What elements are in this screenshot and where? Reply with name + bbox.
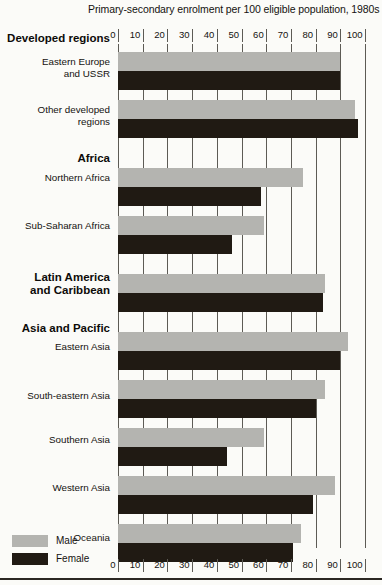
- bar-eastern-europe-and-ussr-female: [118, 71, 340, 90]
- chart-title: Primary-secondary enrolment per 100 elig…: [88, 3, 380, 15]
- bottom-rule: [0, 578, 382, 580]
- plot-area: [118, 44, 365, 548]
- bar-northern-africa-female: [118, 187, 261, 206]
- row-label-other-developed-line1: Other developed: [38, 104, 110, 116]
- bar-eastern-europe-and-ussr-male: [118, 52, 340, 71]
- bar-other-developed-regions-male: [118, 100, 355, 119]
- x-axis-ticks-top: 0102030405060708090100: [112, 29, 382, 43]
- legend-label-male: Male: [56, 534, 78, 548]
- group-label-latin-america-line2: and Caribbean: [30, 284, 110, 297]
- bar-southern-asia-male: [118, 428, 264, 447]
- x-tick-label-100: 100: [325, 29, 365, 40]
- row-label-south-eastern-asia: South-eastern Asia: [27, 390, 110, 402]
- bar-northern-africa-male: [118, 168, 303, 187]
- bar-oceania-male: [118, 524, 301, 543]
- x-tick-label-100: 100: [325, 559, 365, 570]
- row-label-northern-africa: Northern Africa: [45, 172, 110, 184]
- bar-eastern-asia-female: [118, 351, 340, 370]
- row-label-sub-saharan-africa: Sub-Saharan Africa: [25, 220, 110, 232]
- bar-latin-america-and-caribbean-male: [118, 274, 325, 293]
- bar-southern-asia-female: [118, 447, 227, 466]
- gridline-100: [365, 44, 366, 548]
- bars-layer: [118, 44, 365, 548]
- bar-latin-america-and-caribbean-female: [118, 293, 323, 312]
- bar-sub-saharan-africa-female: [118, 235, 232, 254]
- bar-other-developed-regions-female: [118, 119, 358, 138]
- bar-western-asia-male: [118, 476, 335, 495]
- row-label-western-asia: Western Asia: [52, 482, 110, 494]
- bar-western-asia-female: [118, 495, 313, 514]
- group-label-asia-and-pacific: Asia and Pacific: [22, 322, 110, 335]
- bar-eastern-asia-male: [118, 332, 348, 351]
- category-labels: Developed regions Eastern Europe and USS…: [0, 0, 114, 585]
- bar-south-eastern-asia-male: [118, 380, 325, 399]
- group-label-latin-america-line1: Latin America: [34, 271, 110, 284]
- tickmark-100: [365, 29, 366, 42]
- row-label-eastern-europe-line1: Eastern Europe: [42, 56, 110, 68]
- row-label-eastern-asia: Eastern Asia: [55, 341, 110, 353]
- group-label-developed-regions: Developed regions: [7, 32, 110, 45]
- bar-sub-saharan-africa-male: [118, 216, 264, 235]
- legend-swatch-male-icon: [12, 535, 48, 547]
- x-axis-ticks-bottom: 0102030405060708090100: [112, 559, 382, 573]
- legend-swatch-female-icon: [12, 553, 48, 565]
- row-label-eastern-europe-line2: and USSR: [64, 68, 110, 80]
- legend-label-female: Female: [56, 552, 89, 566]
- row-label-other-developed-line2: regions: [78, 116, 110, 128]
- group-label-africa: Africa: [77, 152, 110, 165]
- row-label-oceania: Oceania: [74, 532, 111, 544]
- tickmark-100: [365, 559, 366, 572]
- bar-south-eastern-asia-female: [118, 399, 316, 418]
- enrolment-bar-chart: Primary-secondary enrolment per 100 elig…: [0, 0, 382, 585]
- row-label-southern-asia: Southern Asia: [49, 434, 110, 446]
